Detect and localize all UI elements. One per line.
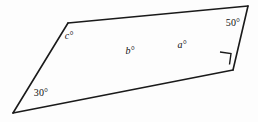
- right-angle-marker: [220, 52, 231, 65]
- angle-label-30: 30°: [34, 88, 48, 98]
- segment-left-apex-to-top-left: [13, 23, 68, 113]
- angle-label-a: a°: [177, 40, 186, 50]
- angle-label-b: b°: [125, 46, 134, 56]
- segment-right-side: [233, 6, 248, 70]
- segment-upper-line: [68, 6, 248, 23]
- angle-label-50: 50°: [226, 18, 240, 28]
- geometry-figure: 30° c° b° a° 50°: [0, 0, 258, 122]
- angle-label-c: c°: [65, 31, 74, 41]
- figure-canvas: [0, 0, 258, 122]
